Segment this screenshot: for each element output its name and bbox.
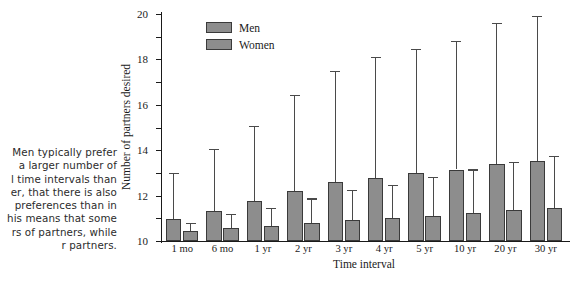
bar-men[interactable]	[166, 219, 182, 241]
bar-women[interactable]	[304, 223, 320, 241]
bar-men[interactable]	[247, 201, 263, 241]
y-axis-tick-label: 18	[137, 53, 148, 65]
legend-label: Men	[239, 22, 260, 34]
bar-men[interactable]	[449, 170, 465, 242]
bar-group: 4 yr	[364, 14, 404, 241]
bar-group: 1 mo	[162, 14, 202, 241]
error-bar-line	[190, 223, 191, 231]
legend-item-men[interactable]: Men	[206, 20, 274, 35]
error-bar-line	[537, 16, 538, 161]
error-bar-line	[352, 190, 353, 220]
error-bar-line	[231, 214, 232, 228]
bar-men[interactable]	[530, 161, 546, 241]
bar-men[interactable]	[489, 164, 505, 241]
x-axis-tick-label: 1 mo	[171, 243, 192, 254]
error-bar-cap	[249, 126, 259, 127]
legend-label: Women	[239, 39, 274, 51]
bar-men[interactable]	[368, 178, 384, 241]
x-axis-tick-label: 10 yr	[454, 243, 476, 254]
error-bar-line	[392, 185, 393, 218]
error-bar-line	[375, 57, 376, 178]
x-axis-tick-label: 3 yr	[335, 243, 352, 254]
error-bar-cap	[169, 173, 179, 174]
legend-item-women[interactable]: Women	[206, 37, 274, 52]
bar-women[interactable]	[345, 220, 361, 241]
bar-men[interactable]	[408, 173, 424, 241]
error-bar-line	[173, 173, 174, 220]
bar-men[interactable]	[287, 191, 303, 241]
error-bar-cap	[468, 169, 478, 170]
x-axis-title: Time interval	[333, 258, 395, 270]
bar-group: 2 yr	[283, 14, 323, 241]
error-bar-cap	[492, 23, 502, 24]
error-bar-line	[554, 156, 555, 208]
error-bar-line	[214, 149, 215, 211]
error-bar-cap	[549, 156, 559, 157]
legend-swatch-icon	[206, 39, 232, 50]
bar-women[interactable]	[223, 228, 239, 241]
x-axis-tick-label: 4 yr	[376, 243, 393, 254]
error-bar-line	[254, 126, 255, 201]
bar-group: 10 yr	[445, 14, 485, 241]
error-bar-cap	[428, 177, 438, 178]
x-axis-tick-label: 20 yr	[494, 243, 516, 254]
error-bar-line	[433, 177, 434, 216]
x-axis-tick-label: 5 yr	[416, 243, 433, 254]
error-bar-cap	[330, 71, 340, 72]
error-bar-cap	[411, 49, 421, 50]
error-bar-line	[473, 169, 474, 212]
error-bar-cap	[266, 208, 276, 209]
bar-women[interactable]	[264, 226, 280, 241]
y-axis-tick: 0	[156, 241, 162, 242]
legend-swatch-icon	[206, 22, 232, 33]
error-bar-cap	[509, 162, 519, 163]
y-axis-tick-label: 12	[137, 190, 148, 202]
bar-group: 3 yr	[324, 14, 364, 241]
error-bar-cap	[532, 16, 542, 17]
error-bar-line	[496, 23, 497, 164]
error-bar-cap	[186, 223, 196, 224]
y-axis-title: Number of partners desired	[120, 64, 132, 190]
y-axis-tick-label: 14	[137, 144, 148, 156]
error-bar-line	[416, 49, 417, 173]
y-axis-tick-label: 10	[137, 235, 148, 247]
error-bar-line	[513, 162, 514, 211]
bar-group: 30 yr	[526, 14, 566, 241]
error-bar-cap	[290, 95, 300, 96]
chart-legend: MenWomen	[206, 20, 274, 54]
error-bar-line	[335, 71, 336, 182]
bar-women[interactable]	[547, 208, 563, 241]
error-bar-line	[294, 95, 295, 191]
bar-women[interactable]	[385, 218, 401, 241]
bar-women[interactable]	[466, 213, 482, 241]
error-bar-line	[271, 208, 272, 226]
error-bar-cap	[371, 57, 381, 58]
error-bar-cap	[347, 190, 357, 191]
error-bar-line	[311, 198, 312, 222]
x-axis-tick-label: 2 yr	[295, 243, 312, 254]
bar-chart: Number of partners desired Time interval…	[0, 0, 577, 283]
error-bar-cap	[451, 41, 461, 42]
error-bar-line	[456, 41, 457, 170]
x-axis-tick-label: 30 yr	[535, 243, 557, 254]
error-bar-cap	[388, 185, 398, 186]
bar-women[interactable]	[425, 216, 441, 241]
error-bar-cap	[209, 149, 219, 150]
bar-women[interactable]	[506, 210, 522, 241]
x-axis-tick-label: 1 yr	[255, 243, 272, 254]
bar-group: 5 yr	[404, 14, 444, 241]
error-bar-cap	[307, 198, 317, 199]
bar-group: 20 yr	[485, 14, 525, 241]
bar-men[interactable]	[206, 211, 222, 241]
y-axis-tick-label: 20	[137, 8, 148, 20]
error-bar-cap	[226, 214, 236, 215]
bar-women[interactable]	[183, 231, 199, 241]
x-axis-tick-label: 6 mo	[212, 243, 233, 254]
bar-men[interactable]	[328, 182, 344, 241]
y-axis-tick-label: 16	[137, 99, 148, 111]
